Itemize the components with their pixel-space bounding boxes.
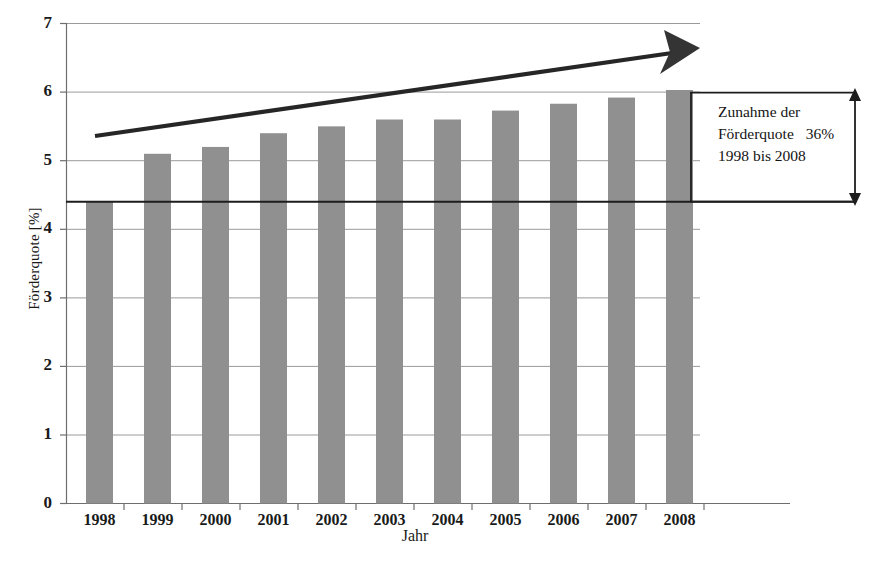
y-tick-0: 0 (26, 493, 52, 513)
y-tick-2: 2 (26, 355, 52, 375)
x-axis-title: Jahr (355, 527, 475, 545)
y-tick-3: 3 (26, 287, 52, 307)
annotation-line-2: Förderquote (718, 125, 794, 142)
chart-canvas: Förderquote [%] 01234567 199819992000200… (0, 0, 876, 567)
annotation-line-3: 1998 bis 2008 (718, 145, 853, 167)
increase-annotation: Zunahme der Förderquote36% 1998 bis 2008 (718, 101, 853, 167)
annotation-line-2-wrap: Förderquote36% (718, 123, 853, 145)
y-axis-title: Förderquote [%] (26, 159, 43, 359)
y-tick-1: 1 (26, 424, 52, 444)
y-tick-6: 6 (26, 81, 52, 101)
y-tick-5: 5 (26, 150, 52, 170)
x-tick-2008: 2008 (645, 511, 715, 529)
y-tick-7: 7 (26, 13, 52, 33)
annotation-percent: 36% (806, 125, 834, 142)
y-tick-4: 4 (26, 218, 52, 238)
chart-text-layer: Förderquote [%] 01234567 199819992000200… (0, 0, 876, 567)
annotation-line-1: Zunahme der (718, 101, 853, 123)
